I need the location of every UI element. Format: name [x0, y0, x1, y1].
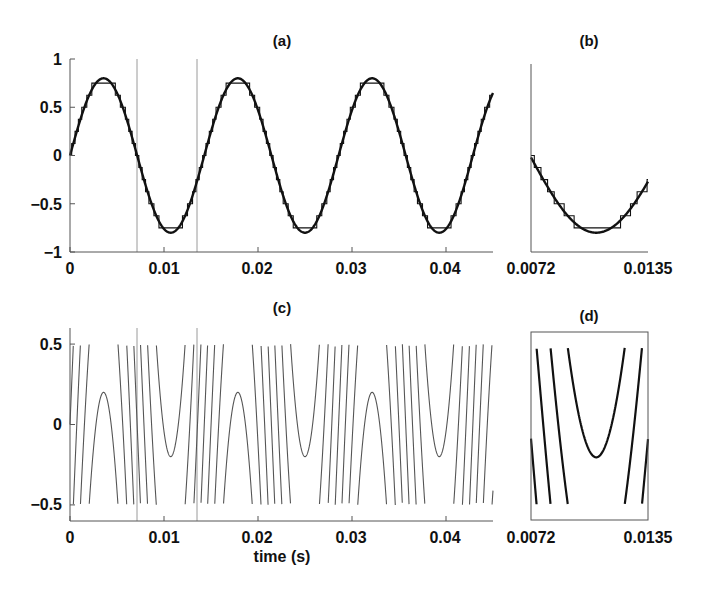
sinusoid-line-zoom [531, 157, 648, 232]
x-tick-label: 0 [66, 260, 75, 277]
y-tick-label: 1 [53, 51, 62, 68]
panel-d: (d) 0.0072 0.0135 [507, 307, 673, 546]
panel-c-title: (c) [273, 299, 291, 316]
x-tick-label: 0.03 [335, 529, 366, 546]
figure: (a) 0 0.01 0.02 0.03 0.04 1 0.5 0 −0.5 −… [0, 0, 705, 590]
sinusoid-line [70, 78, 493, 232]
panel-a: (a) 0 0.01 0.02 0.03 0.04 1 0.5 0 −0.5 −… [30, 32, 493, 277]
x-tick-label: 0.0072 [507, 529, 556, 546]
x-axis-label: time (s) [254, 548, 311, 565]
x-tick-label: 0.0135 [624, 529, 673, 546]
x-tick-label: 0.03 [335, 260, 366, 277]
x-tick-label: 0.04 [429, 529, 460, 546]
x-tick-label: 0.04 [429, 260, 460, 277]
panel-c: (c) 0 0.01 0.02 0.03 0.04 0.5 0 −0.5 tim… [30, 299, 493, 565]
x-tick-label: 0.01 [148, 260, 179, 277]
y-tick-label: −0.5 [30, 496, 62, 513]
x-tick-label: 0 [66, 529, 75, 546]
panel-b: (b) 0.0072 0.0135 [507, 32, 673, 277]
y-tick-label: 0.5 [40, 336, 62, 353]
x-tick-label: 0.02 [241, 260, 272, 277]
x-tick-label: 0.0135 [624, 260, 673, 277]
y-tick-label: 0 [53, 147, 62, 164]
error-signal-line-zoom [531, 348, 648, 504]
quantized-staircase-zoom [531, 156, 648, 228]
quantized-staircase [70, 83, 493, 228]
axes-b [531, 64, 648, 252]
x-tick-label: 0.0072 [507, 260, 556, 277]
panel-b-title: (b) [579, 32, 598, 49]
panel-a-title: (a) [273, 32, 291, 49]
y-tick-label: −0.5 [30, 196, 62, 213]
y-tick-label: 0 [53, 416, 62, 433]
x-tick-label: 0.02 [241, 529, 272, 546]
y-tick-label: 0.5 [40, 99, 62, 116]
y-tick-label: −1 [44, 244, 62, 261]
error-signal-line [70, 344, 493, 505]
panel-d-title: (d) [579, 307, 598, 324]
x-tick-label: 0.01 [148, 529, 179, 546]
